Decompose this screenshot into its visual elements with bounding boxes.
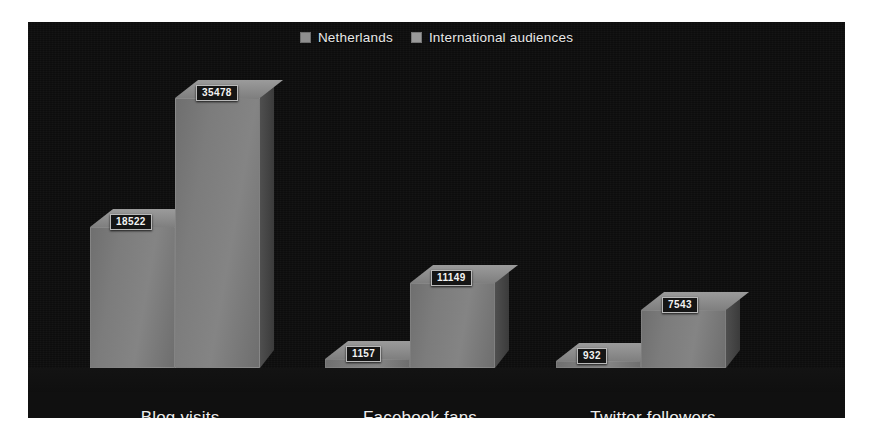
plot-area: 18522 35478 1157 11149 [28,22,845,418]
bar-side-face [260,80,274,368]
data-label-blog-visits-netherlands: 18522 [110,214,152,230]
data-label-facebook-fans-netherlands: 1157 [346,346,381,362]
bar-blog-visits-netherlands[interactable] [90,227,175,368]
data-label-twitter-followers-netherlands: 932 [577,348,607,364]
category-label-facebook-fans: Facebook fans [363,408,477,418]
data-label-twitter-followers-international: 7543 [662,297,698,313]
chart-panel: Netherlands International audiences 1852… [28,22,845,418]
bar-front-face [641,310,726,368]
bar-twitter-followers-international[interactable] [641,310,726,368]
legend-label-international: International audiences [429,30,573,45]
legend-swatch-international-icon [411,32,422,43]
bar-front-face [175,98,260,368]
data-label-facebook-fans-international: 11149 [431,270,472,286]
category-label-blog-visits: Blog visits [141,408,220,418]
category-label-twitter-followers: Twitter followers [590,408,715,418]
data-label-blog-visits-international: 35478 [196,85,238,101]
legend-item-netherlands[interactable]: Netherlands [300,30,393,45]
bar-front-face [410,283,495,368]
chart-screenshot: Netherlands International audiences 1852… [0,0,875,441]
bar-front-face [90,227,175,368]
legend-swatch-netherlands-icon [300,32,311,43]
legend-label-netherlands: Netherlands [318,30,393,45]
bar-facebook-fans-international[interactable] [410,283,495,368]
legend-item-international[interactable]: International audiences [411,30,573,45]
chart-legend: Netherlands International audiences [28,30,845,45]
bar-blog-visits-international[interactable] [175,98,260,368]
